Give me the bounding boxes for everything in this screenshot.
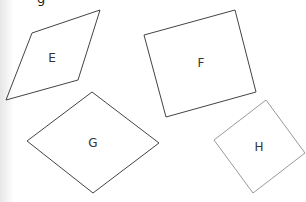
shape-label-e: E	[48, 51, 56, 65]
shape-label-f: F	[198, 56, 205, 70]
shapes-diagram: E F G H	[0, 0, 306, 202]
shape-f: F	[144, 10, 256, 117]
shape-e: E	[6, 10, 100, 100]
shape-g: G	[27, 92, 159, 193]
shape-label-h: H	[254, 140, 263, 154]
shape-label-g: G	[88, 136, 97, 150]
shape-h: H	[214, 100, 305, 193]
